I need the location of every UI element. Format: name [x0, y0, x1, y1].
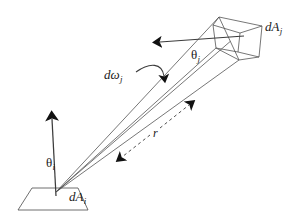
dA-j-symbol: dA: [265, 19, 279, 34]
label-domega-j: dωj: [104, 66, 122, 84]
theta-i-subscript: i: [52, 162, 55, 172]
receiver-patch-box: [213, 17, 262, 60]
dA-j-subscript: j: [280, 26, 283, 36]
ray-bundle: [56, 17, 240, 192]
receiver-edge-tl: [213, 17, 219, 25]
receiver-front-face: [219, 17, 262, 60]
distance-arrow-up: [160, 105, 189, 128]
figure-container: θi θj dωj dAi dAj r: [0, 0, 304, 218]
solid-angle-pointer: [136, 65, 164, 76]
solid-angle-curve: [136, 65, 164, 76]
label-theta-j: θj: [191, 46, 200, 64]
ray-line-bottom: [56, 60, 239, 192]
label-r: r: [153, 124, 158, 140]
domega-j-symbol: dω: [104, 67, 120, 82]
ray-line-top: [56, 17, 219, 192]
ray-line-lower-mid: [56, 48, 216, 192]
distance-arrow-down: [122, 135, 150, 157]
ray-line-upper-mid: [56, 33, 240, 192]
dA-i-subscript: i: [84, 196, 87, 206]
domega-j-subscript: j: [120, 74, 123, 84]
label-dA-j: dAj: [265, 18, 282, 36]
label-dA-i: dAi: [69, 188, 86, 206]
theta-j-subscript: j: [197, 54, 200, 64]
label-theta-i: θi: [46, 154, 55, 172]
r-symbol: r: [153, 126, 158, 140]
dA-i-symbol: dA: [69, 189, 83, 204]
diagram-canvas: [0, 0, 304, 218]
